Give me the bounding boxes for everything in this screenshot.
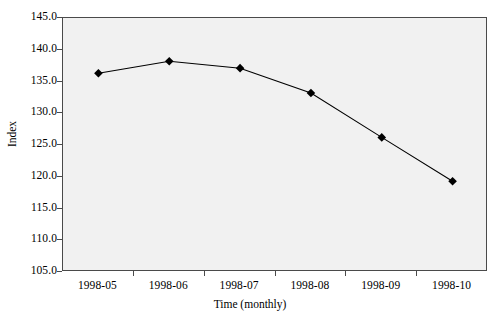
y-tick-label: 140.0 [12, 43, 57, 55]
y-tick-label: 145.0 [12, 11, 57, 23]
y-tick-mark [57, 176, 62, 177]
y-tick-label: 130.0 [12, 106, 57, 118]
y-tick-mark [57, 81, 62, 82]
x-axis-title: Time (monthly) [0, 298, 500, 310]
y-tick-label: 110.0 [12, 233, 57, 245]
x-tick-label: 1998-06 [128, 279, 208, 291]
x-tick-label: 1998-07 [199, 279, 279, 291]
y-axis-title: Index [6, 104, 18, 164]
x-tick-label: 1998-09 [341, 279, 421, 291]
x-tick-label: 1998-10 [412, 279, 492, 291]
y-tick-mark [57, 17, 62, 18]
x-tick-mark [345, 271, 346, 276]
y-tick-label: 105.0 [12, 265, 57, 277]
x-tick-mark [133, 271, 134, 276]
x-tick-label: 1998-08 [270, 279, 350, 291]
x-tick-mark [275, 271, 276, 276]
x-tick-mark [204, 271, 205, 276]
chart-figure: 145.0140.0135.0130.0125.0120.0115.0110.0… [0, 0, 500, 319]
y-tick-mark [57, 112, 62, 113]
y-axis-ticks: 145.0140.0135.0130.0125.0120.0115.0110.0… [0, 0, 500, 319]
y-tick-label: 120.0 [12, 170, 57, 182]
y-tick-mark [57, 144, 62, 145]
y-tick-mark [57, 239, 62, 240]
x-tick-mark [416, 271, 417, 276]
y-tick-mark [57, 208, 62, 209]
y-tick-label: 135.0 [12, 75, 57, 87]
y-tick-mark [57, 49, 62, 50]
y-tick-label: 125.0 [12, 138, 57, 150]
x-tick-label: 1998-05 [57, 279, 137, 291]
y-tick-label: 115.0 [12, 202, 57, 214]
y-tick-mark [57, 271, 62, 272]
